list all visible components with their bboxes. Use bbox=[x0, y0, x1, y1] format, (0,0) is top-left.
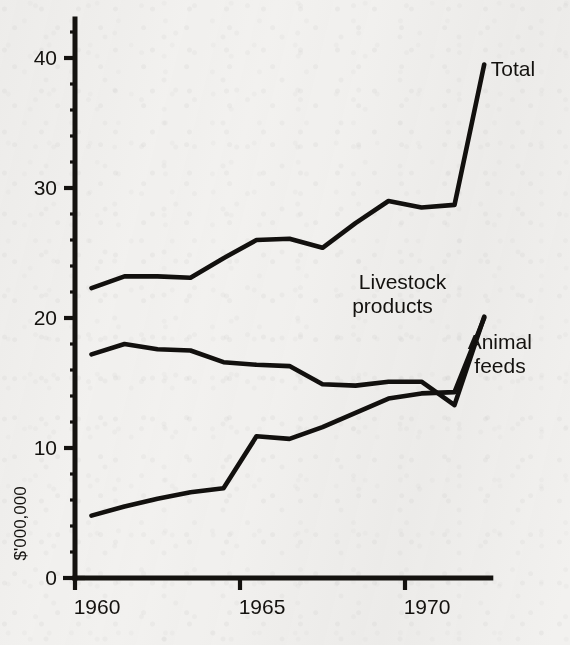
y-axis-tick-labels: 010203040 bbox=[34, 46, 57, 589]
series-label-total: Total bbox=[491, 57, 535, 80]
y-tick-label: 30 bbox=[34, 176, 57, 199]
chart-svg: 010203040 196019651970 TotalLivestockpro… bbox=[0, 0, 570, 645]
y-axis-title: $'000,000 bbox=[11, 486, 30, 560]
y-tick-label: 40 bbox=[34, 46, 57, 69]
x-tick-label: 1960 bbox=[74, 595, 121, 618]
y-tick-label: 10 bbox=[34, 436, 57, 459]
series-label-products: products bbox=[352, 294, 433, 317]
y-axis-minor-ticks bbox=[70, 32, 75, 552]
series-label-animal: Animal bbox=[468, 330, 532, 353]
x-tick-label: 1970 bbox=[404, 595, 451, 618]
y-axis: 010203040 bbox=[34, 19, 85, 589]
y-tick-label: 20 bbox=[34, 306, 57, 329]
x-tick-label: 1965 bbox=[239, 595, 286, 618]
series-inline-labels: TotalLivestockproductsAnimalfeeds bbox=[352, 57, 535, 376]
series-line-total bbox=[92, 65, 485, 289]
line-chart-figure: 010203040 196019651970 TotalLivestockpro… bbox=[0, 0, 570, 645]
x-axis: 196019651970 bbox=[74, 578, 491, 618]
x-axis-tick-labels: 196019651970 bbox=[74, 595, 451, 618]
series-label-livestock: Livestock bbox=[359, 270, 447, 293]
series-label-feeds: feeds bbox=[474, 354, 525, 377]
y-tick-label: 0 bbox=[45, 566, 57, 589]
